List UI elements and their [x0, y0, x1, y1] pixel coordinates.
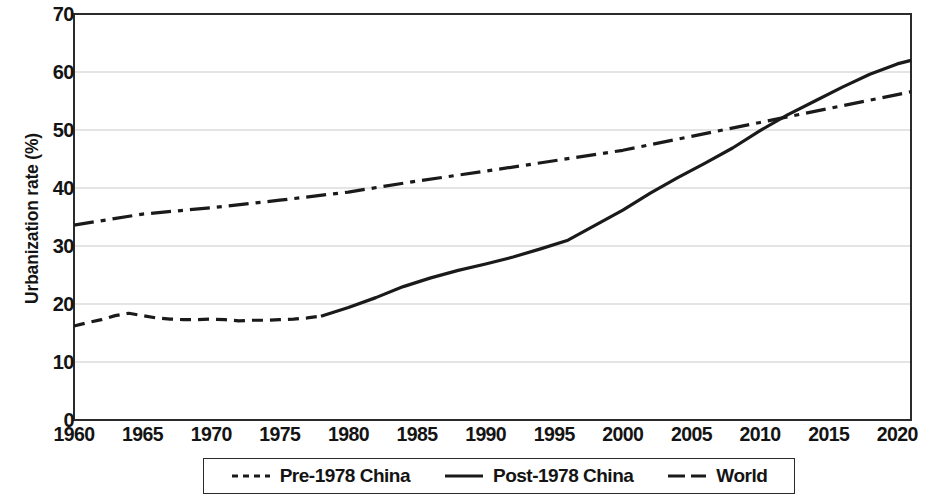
x-tick-label: 1975: [259, 423, 300, 446]
legend-swatch-dashed-icon: [231, 470, 271, 482]
legend-item: World: [667, 465, 767, 487]
series-line-2: [74, 92, 911, 225]
chart-legend: Pre-1978 ChinaPost-1978 ChinaWorld: [203, 458, 795, 494]
x-tick-label: 1965: [122, 423, 163, 446]
y-tick-label: 10: [53, 351, 74, 374]
legend-swatch-dash-dot-icon: [667, 470, 707, 482]
y-tick-label: 60: [53, 61, 74, 84]
x-tick-label: 1980: [328, 423, 369, 446]
legend-label: World: [716, 465, 767, 487]
plot-frame: [74, 14, 911, 420]
x-tick-label: 1960: [54, 423, 95, 446]
legend-item: Pre-1978 China: [231, 465, 410, 487]
x-tick-label: 2005: [671, 423, 712, 446]
y-tick-label: 40: [53, 177, 74, 200]
urbanization-rate-chart: Urbanization rate (%) 010203040506070 19…: [0, 0, 933, 500]
legend-label: Post-1978 China: [493, 465, 633, 487]
legend-item: Post-1978 China: [444, 465, 633, 487]
legend-swatch-solid-icon: [444, 470, 484, 482]
x-tick-label: 1985: [397, 423, 438, 446]
x-tick-label: 1995: [534, 423, 575, 446]
y-tick-label: 50: [53, 119, 74, 142]
legend-label: Pre-1978 China: [280, 465, 410, 487]
x-tick-label: 2015: [808, 423, 849, 446]
series-line-0: [74, 313, 321, 326]
y-tick-label: 20: [53, 293, 74, 316]
y-tick-label: 30: [53, 235, 74, 258]
y-tick-label: 70: [53, 3, 74, 26]
x-tick-label: 1970: [191, 423, 232, 446]
x-tick-label: 2000: [602, 423, 643, 446]
x-tick-label: 2020: [877, 423, 918, 446]
x-tick-label: 1990: [465, 423, 506, 446]
x-tick-label: 2010: [740, 423, 781, 446]
